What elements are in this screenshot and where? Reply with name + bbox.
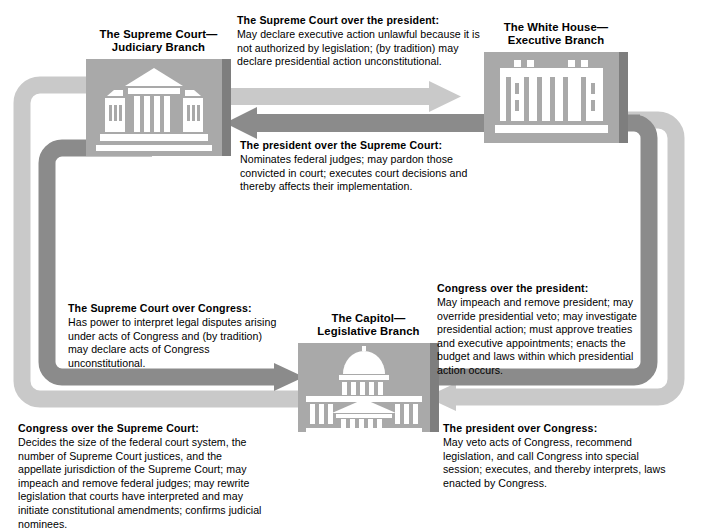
callout-body: Nominates federal judges; may pardon tho… — [240, 153, 490, 194]
white-house-building-box — [484, 52, 628, 143]
node-white-house-label: The White House— Executive Branch — [504, 21, 609, 48]
arrow-supreme-court-to-president — [214, 81, 461, 112]
callout-title: The president over Congress: — [443, 421, 675, 435]
node-supreme-court-label-line2: Judiciary Branch — [112, 41, 205, 53]
node-capitol-label: The Capitol— Legislative Branch — [317, 312, 419, 339]
node-white-house: The White House— Executive Branch — [484, 21, 628, 143]
node-capitol: The Capitol— Legislative Branch — [298, 312, 439, 432]
supreme-court-building-box — [86, 59, 231, 156]
callout-body: Decides the size of the federal court sy… — [18, 436, 262, 531]
node-white-house-label-line2: Executive Branch — [508, 34, 604, 46]
callout-president-over-congress: The president over Congress: May veto ac… — [443, 421, 675, 490]
callout-title: Congress over the Supreme Court: — [18, 421, 262, 435]
callout-congress-over-supreme-court: Congress over the Supreme Court: Decides… — [18, 421, 262, 531]
callout-body: May declare executive action unlawful be… — [237, 28, 487, 69]
node-supreme-court: The Supreme Court— Judiciary Branch — [86, 28, 231, 156]
callout-body: May veto acts of Congress, recommend leg… — [443, 436, 675, 490]
callout-supreme-court-over-congress: The Supreme Court over Congress: Has pow… — [68, 301, 280, 370]
supreme-court-building-icon — [86, 59, 222, 156]
node-supreme-court-label-line1: The Supreme Court— — [100, 28, 218, 40]
callout-title: The president over the Supreme Court: — [240, 138, 490, 152]
node-capitol-label-line1: The Capitol— — [331, 312, 405, 324]
callout-supreme-court-over-president: The Supreme Court over the president: Ma… — [237, 13, 487, 69]
callout-congress-over-president: Congress over the president: May impeach… — [437, 281, 649, 378]
callout-title: Congress over the president: — [437, 281, 649, 295]
callout-body: Has power to interpret legal disputes ar… — [68, 316, 280, 370]
callout-president-over-supreme-court: The president over the Supreme Court: No… — [240, 138, 490, 194]
arrow-president-to-supreme-court — [225, 107, 488, 139]
node-supreme-court-label: The Supreme Court— Judiciary Branch — [100, 28, 218, 55]
capitol-building-icon — [298, 343, 430, 432]
callout-title: The Supreme Court over the president: — [237, 13, 487, 27]
white-house-building-icon — [484, 52, 619, 143]
callout-title: The Supreme Court over Congress: — [68, 301, 280, 315]
node-white-house-label-line1: The White House— — [504, 21, 609, 33]
node-capitol-label-line2: Legislative Branch — [317, 325, 419, 337]
capitol-building-box — [298, 343, 439, 432]
callout-body: May impeach and remove president; may ov… — [437, 296, 649, 378]
